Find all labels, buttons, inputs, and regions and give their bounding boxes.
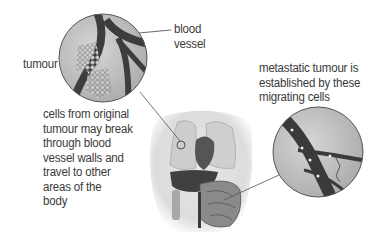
- blood-vessel-label-line: blood: [174, 22, 205, 37]
- caption-line: metastatic tumour is: [259, 61, 360, 76]
- caption-line: body: [43, 194, 133, 209]
- torso-illustration: [150, 111, 252, 232]
- blood-vessel-label: blood vessel: [174, 22, 205, 51]
- spread-caption: cells from original tumour may break thr…: [43, 107, 133, 209]
- metastatic-caption: metastatic tumour is established by thes…: [259, 61, 360, 105]
- caption-line: tumour may break: [43, 122, 133, 137]
- caption-line: areas of the: [43, 180, 133, 195]
- caption-line: migrating cells: [259, 90, 360, 105]
- caption-line: vessel walls and: [43, 151, 133, 166]
- caption-line: cells from original: [43, 107, 133, 122]
- caption-line: established by these: [259, 76, 360, 91]
- caption-line: travel to other: [43, 165, 133, 180]
- tumour-label: tumour: [23, 57, 58, 72]
- primary-tumour-magnified: [59, 10, 150, 110]
- metastatic-tumour-magnified: [273, 107, 363, 200]
- caption-line: through blood: [43, 136, 133, 151]
- blood-vessel-label-line: vessel: [174, 37, 205, 52]
- intestines: [200, 181, 241, 227]
